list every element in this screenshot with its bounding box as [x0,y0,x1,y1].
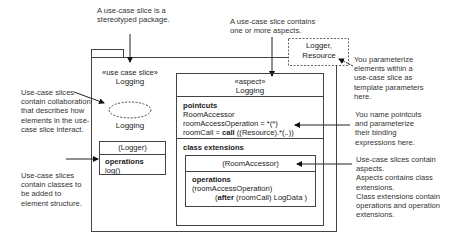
room-call-expression: ((Resource).*(..)) [235,128,294,137]
aspect-stereotype: «aspect» [177,77,323,86]
logger-class-name: (Logger) [100,142,165,155]
after-keyword: after [218,193,234,202]
annotation-classes: Use-case slices contain classes to be ad… [21,171,82,208]
call-keyword: call [222,128,235,137]
collaboration-name: Logging [105,121,155,130]
extension-op-after: (after (roomCall) LogData ) [192,193,315,202]
annotation-aspects-extensions: Use-case slices contain aspects. Aspects… [356,155,440,219]
annotation-pointcuts: You name pointcuts and parameterize thei… [355,110,421,147]
logger-operation-log: log() [100,166,165,175]
extension-operations-title: operations [192,175,315,184]
aspect-name: Logging [177,86,323,95]
aspect-box[interactable]: «aspect» Logging pointcuts RoomAccessor … [176,73,324,226]
pointcut-room-access-operation: roomAccessOperation = *(*) [183,119,323,128]
pointcut-room-call: roomCall = call ((Resource).*(..)) [183,128,323,137]
extension-operations: operations (roomAccessOperation) (after … [186,172,315,202]
annotation-contains-aspects: A use-case slice contains one or more as… [230,17,315,35]
aspect-header: «aspect» Logging [177,74,323,97]
package-stereotype: «use case slice» [96,68,164,77]
room-accessor-extension[interactable]: (RoomAccessor) operations (roomAccessOpe… [185,155,316,207]
room-call-prefix: roomCall = [183,128,222,137]
pointcuts-title: pointcuts [183,101,323,110]
pointcut-room-accessor: RoomAccessor [183,110,323,119]
template-parameters: Logger, Resource [289,41,349,61]
extension-op-room-access-operation: (roomAccessOperation) [192,184,315,193]
logger-class[interactable]: (Logger) operations log() [99,141,166,175]
package-name: Logging [96,77,164,86]
class-extensions-title: class extensions [177,139,323,152]
annotation-template-params: You parameterize elements within a use-c… [354,55,424,101]
annotation-stereotyped-package: A use-case slice is a stereotyped packag… [97,6,170,24]
op-log-data: (roomCall) LogData ) [234,193,307,202]
extension-name: (RoomAccessor) [186,156,315,172]
annotation-collaboration: Use-case slices contain collaboration th… [21,88,91,134]
logger-operations-title: operations [100,157,165,166]
pointcuts-section: pointcuts RoomAccessor roomAccessOperati… [177,97,323,139]
